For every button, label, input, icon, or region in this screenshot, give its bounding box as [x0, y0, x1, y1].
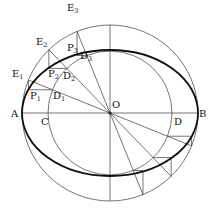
- diagram-canvas: ABCDOE1E2E3P1P2P3D1D2D3: [0, 0, 218, 214]
- label-d: D: [174, 116, 182, 127]
- label-e2: E2: [36, 36, 47, 49]
- label-d2: D2: [63, 70, 75, 83]
- label-p1: P1: [30, 90, 41, 103]
- label-c: C: [41, 116, 49, 127]
- label-p2: P2: [48, 68, 59, 81]
- label-a: A: [10, 108, 19, 119]
- label-d1: D1: [53, 90, 65, 103]
- label-e1: E1: [12, 68, 23, 81]
- ellipse-construction-diagram: ABCDOE1E2E3P1P2P3D1D2D3: [0, 0, 218, 214]
- label-b: B: [199, 108, 206, 119]
- radial-line: [77, 31, 110, 113]
- label-e3: E3: [67, 2, 78, 15]
- label-o: O: [112, 99, 120, 110]
- radial-line: [110, 113, 143, 195]
- label-p3: P3: [67, 42, 78, 55]
